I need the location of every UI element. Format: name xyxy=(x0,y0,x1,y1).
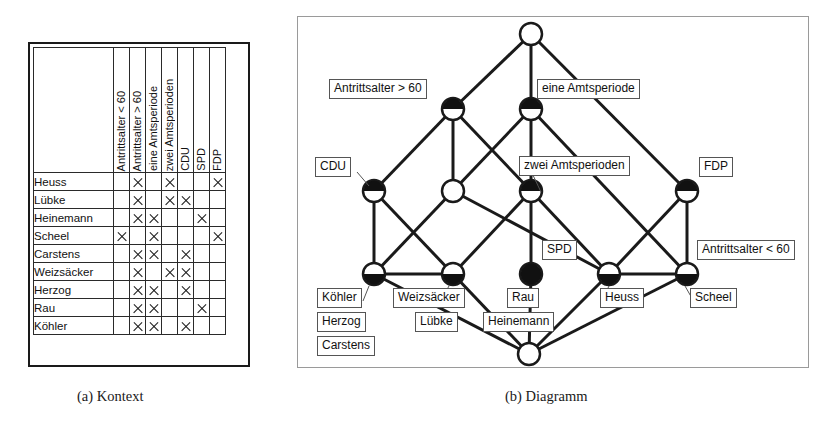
lattice-node[interactable] xyxy=(520,98,542,120)
label-leader-line xyxy=(363,286,369,301)
incidence-cell xyxy=(114,263,130,281)
attribute-header-label: zwei Amtsperioden xyxy=(162,79,177,171)
attribute-header-label: CDU xyxy=(178,147,193,171)
attribute-label[interactable]: Antrittsalter > 60 xyxy=(329,79,427,99)
lattice-node[interactable] xyxy=(442,263,464,285)
table-row: Lübke xyxy=(34,191,226,209)
context-table: Antrittsalter < 60Antrittsalter > 60eine… xyxy=(33,47,226,335)
incidence-cell xyxy=(162,245,178,263)
incidence-cell xyxy=(130,173,146,191)
incidence-cell xyxy=(114,191,130,209)
cross-icon xyxy=(130,263,145,280)
cross-icon xyxy=(178,245,193,262)
incidence-cell xyxy=(178,299,194,317)
cross-icon xyxy=(146,299,161,316)
attribute-label[interactable]: eine Amtsperiode xyxy=(537,79,640,99)
attribute-header: zwei Amtsperioden xyxy=(162,48,178,173)
object-label[interactable]: Carstens xyxy=(317,336,375,356)
lattice-node[interactable] xyxy=(598,263,620,285)
attribute-label[interactable]: SPD xyxy=(542,240,577,260)
object-name-cell: Heuss xyxy=(34,173,114,191)
incidence-cell xyxy=(210,263,226,281)
incidence-cell xyxy=(146,263,162,281)
object-label[interactable]: Köhler xyxy=(317,288,362,308)
attribute-header: eine Amtsperiode xyxy=(146,48,162,173)
object-name-cell: Weizsäcker xyxy=(34,263,114,281)
cross-icon xyxy=(178,317,193,334)
incidence-cell xyxy=(210,173,226,191)
incidence-cell xyxy=(210,209,226,227)
incidence-cell xyxy=(194,173,210,191)
incidence-cell xyxy=(178,263,194,281)
object-label[interactable]: Rau xyxy=(507,288,539,308)
attribute-label[interactable]: FDP xyxy=(699,157,733,177)
incidence-cell xyxy=(130,263,146,281)
incidence-cell xyxy=(130,245,146,263)
incidence-cell xyxy=(146,317,162,335)
incidence-cell xyxy=(114,299,130,317)
lattice-node[interactable] xyxy=(518,343,540,365)
object-label[interactable]: Heinemann xyxy=(483,312,554,332)
object-label[interactable]: Lübke xyxy=(415,312,458,332)
lattice-node[interactable] xyxy=(442,180,464,202)
node-circle xyxy=(518,343,540,365)
lattice-node[interactable] xyxy=(520,23,542,45)
object-label[interactable]: Heuss xyxy=(600,288,644,308)
table-corner-cell xyxy=(34,48,114,173)
incidence-cell xyxy=(194,227,210,245)
incidence-cell xyxy=(162,173,178,191)
lattice-node[interactable] xyxy=(520,180,542,202)
object-name-cell: Herzog xyxy=(34,281,114,299)
object-name-cell: Carstens xyxy=(34,245,114,263)
lattice-node[interactable] xyxy=(676,263,698,285)
incidence-cell xyxy=(162,317,178,335)
table-header-row: Antrittsalter < 60Antrittsalter > 60eine… xyxy=(34,48,226,173)
cross-icon xyxy=(146,227,161,244)
lattice-node[interactable] xyxy=(363,263,385,285)
incidence-cell xyxy=(114,227,130,245)
incidence-cell xyxy=(162,227,178,245)
node-circle xyxy=(442,180,464,202)
cross-icon xyxy=(130,299,145,316)
attribute-header-label: eine Amtsperiode xyxy=(146,86,161,171)
object-label[interactable]: Scheel xyxy=(690,288,737,308)
caption-diagramm: (b) Diagramm xyxy=(505,388,588,405)
incidence-cell xyxy=(162,299,178,317)
incidence-cell xyxy=(130,227,146,245)
incidence-cell xyxy=(210,245,226,263)
incidence-cell xyxy=(178,281,194,299)
object-name-cell: Rau xyxy=(34,299,114,317)
attribute-label[interactable]: Antrittsalter < 60 xyxy=(697,240,795,260)
attribute-header: Antrittsalter < 60 xyxy=(114,48,130,173)
incidence-cell xyxy=(178,173,194,191)
cross-icon xyxy=(210,173,225,190)
lattice-node[interactable] xyxy=(676,180,698,202)
object-name-cell: Heinemann xyxy=(34,209,114,227)
attribute-label[interactable]: CDU xyxy=(315,157,351,177)
object-name-cell: Scheel xyxy=(34,227,114,245)
cross-icon xyxy=(114,227,129,244)
object-label[interactable]: Weizsäcker xyxy=(393,288,465,308)
cross-icon xyxy=(130,191,145,208)
cross-icon xyxy=(178,263,193,280)
incidence-cell xyxy=(146,173,162,191)
cross-icon xyxy=(162,173,177,190)
attribute-header-label: Antrittsalter > 60 xyxy=(130,91,145,171)
attribute-header: FDP xyxy=(210,48,226,173)
lattice-node[interactable] xyxy=(520,263,542,285)
incidence-cell xyxy=(130,281,146,299)
incidence-cell xyxy=(162,281,178,299)
incidence-cell xyxy=(146,191,162,209)
cross-icon xyxy=(130,281,145,298)
object-label[interactable]: Herzog xyxy=(317,312,366,332)
incidence-cell xyxy=(210,317,226,335)
lattice-edge xyxy=(374,109,453,191)
lattice-node[interactable] xyxy=(442,98,464,120)
attribute-label[interactable]: zwei Amtsperioden xyxy=(519,156,630,176)
cross-icon xyxy=(194,299,209,316)
incidence-cell xyxy=(146,245,162,263)
incidence-cell xyxy=(130,299,146,317)
incidence-cell xyxy=(210,281,226,299)
lattice-edge xyxy=(453,34,531,109)
object-name-cell: Köhler xyxy=(34,317,114,335)
